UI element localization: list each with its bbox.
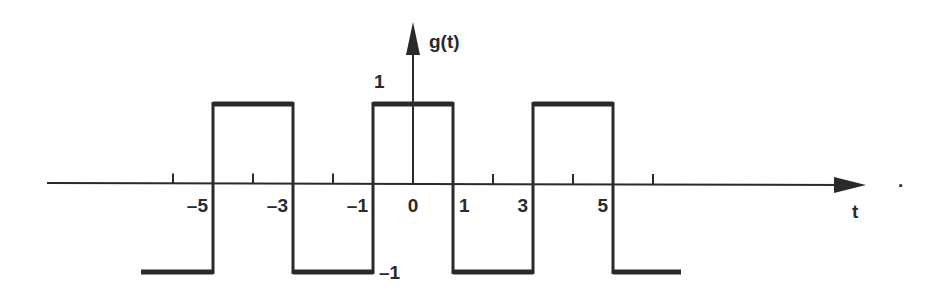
trailing-dot-mark: · bbox=[898, 175, 904, 196]
tick-label: 0 bbox=[408, 195, 419, 216]
square-wave bbox=[141, 102, 681, 274]
tick-label: –5 bbox=[187, 195, 209, 216]
tick-label: 5 bbox=[597, 195, 608, 216]
tick-labels: –5–3–10135 bbox=[187, 195, 609, 216]
tick-label: 1 bbox=[459, 195, 470, 216]
tick-label: 3 bbox=[517, 195, 528, 216]
tick-label: –3 bbox=[267, 195, 288, 216]
level-label-low: –1 bbox=[379, 262, 401, 283]
g-axis-label: g(t) bbox=[429, 31, 460, 52]
t-axis-line bbox=[47, 183, 845, 185]
square-wave-diagram: g(t) t 1 –1 · –5–3–10135 bbox=[0, 0, 935, 305]
tick-label: –1 bbox=[347, 195, 369, 216]
t-axis-label: t bbox=[852, 201, 859, 222]
t-axis-arrowhead-icon bbox=[834, 177, 866, 193]
level-label-high: 1 bbox=[374, 71, 385, 92]
g-axis-arrowhead-icon bbox=[406, 22, 420, 55]
